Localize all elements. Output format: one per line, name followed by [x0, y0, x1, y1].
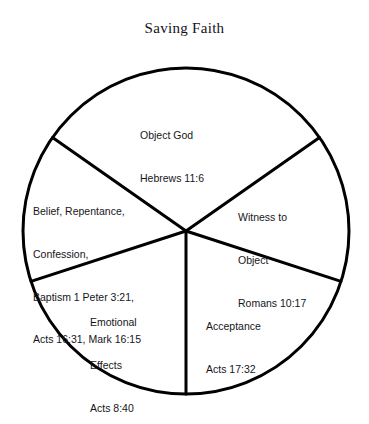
- segment-line: Confession,: [33, 247, 141, 261]
- segment-line: Object God: [140, 128, 204, 142]
- segment-line: Acts 17:32: [206, 362, 261, 376]
- segment-line: Acceptance: [206, 319, 261, 333]
- segment-line: Belief, Repentance,: [33, 204, 141, 218]
- segment-line: Object: [238, 253, 306, 267]
- segment-line: Hebrews 11:6: [140, 171, 204, 185]
- segment-line: Baptism 1 Peter 3:21,: [33, 290, 141, 304]
- segment-label-acceptance: Acceptance Acts 17:32: [206, 291, 261, 405]
- segment-label-object-god: Object God Hebrews 11:6: [140, 100, 204, 214]
- segment-line: Witness to: [238, 210, 306, 224]
- saving-faith-diagram: Saving Faith Object God Hebrews 11:6 Wit…: [0, 0, 369, 424]
- segment-line: Acts 16:31, Mark 16:15: [33, 332, 141, 346]
- segment-line: Acts 8:40: [90, 401, 137, 415]
- segment-label-belief-repentance-confession: Belief, Repentance, Confession, Baptism …: [33, 176, 141, 375]
